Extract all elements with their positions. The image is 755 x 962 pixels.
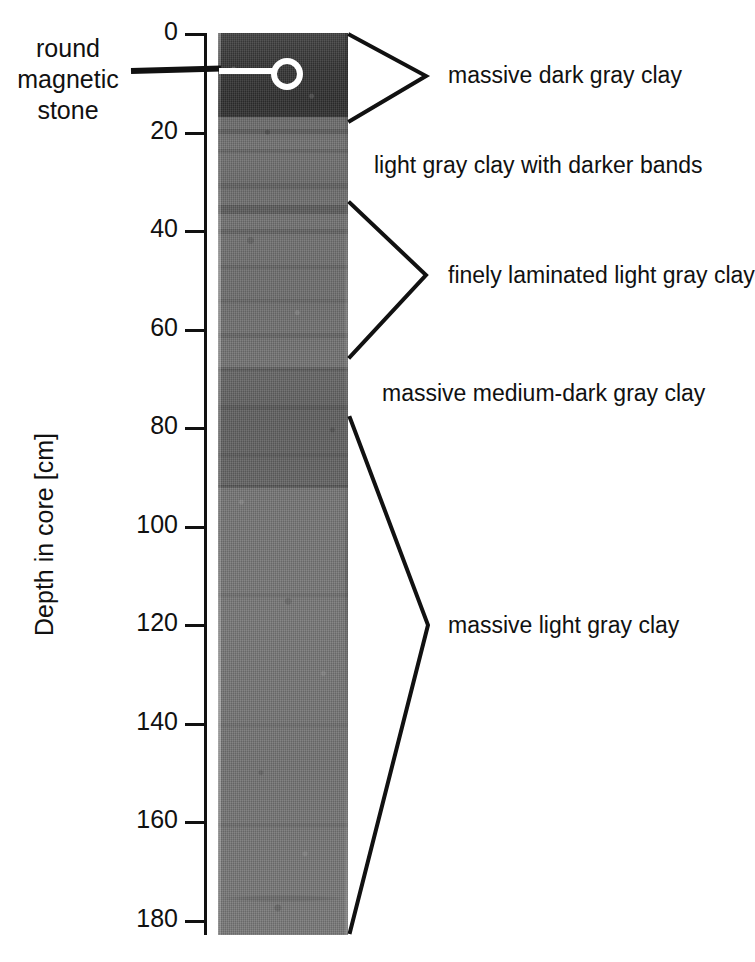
unit-3-label: finely laminated light gray clay [448,262,755,288]
unit-4-label: massive medium-dark gray clay [382,380,705,406]
callout-leader-line-inner [219,68,277,74]
axis-tick-label-20: 20 [150,118,178,143]
unit-1-label: massive dark gray clay [448,62,682,88]
unit-3-bracket [348,195,438,365]
axis-tick-label-160: 160 [136,807,178,832]
axis-tick-label-60: 60 [150,315,178,340]
axis-tick-label-0: 0 [164,19,178,44]
axis-tick-label-180: 180 [136,906,178,931]
unit-5-bracket [348,410,438,940]
axis-tick-160 [185,821,205,824]
axis-tick-60 [185,329,205,332]
callout-label: round magnetic stone [8,33,128,126]
unit-1-bracket [348,25,438,135]
core-unit-3 [218,206,348,369]
axis-tick-180 [185,920,205,923]
axis-tick-80 [185,427,205,430]
callout-label-line-2: magnetic [8,64,128,95]
axis-tick-100 [185,526,205,529]
core-unit-5 [218,487,348,935]
circle-marker-icon [271,58,303,90]
axis-tick-label-120: 120 [136,610,178,635]
core-log-figure: 0 20 40 60 80 100 120 140 160 180 Depth … [0,0,755,962]
axis-title: Depth in core [cm] [30,405,59,665]
callout-label-line-1: round [8,33,128,64]
axis-tick-120 [185,624,205,627]
unit-2-label: light gray clay with darker bands [374,152,703,178]
core-unit-4 [218,369,348,487]
axis-tick-label-100: 100 [136,512,178,537]
axis-line [204,33,207,935]
axis-tick-label-40: 40 [150,216,178,241]
unit-5-label: massive light gray clay [448,612,679,638]
axis-tick-140 [185,723,205,726]
core-photograph [218,33,348,935]
axis-tick-0 [185,33,205,36]
axis-tick-label-80: 80 [150,413,178,438]
axis-tick-20 [185,132,205,135]
core-unit-2 [218,117,348,206]
axis-tick-40 [185,230,205,233]
axis-tick-label-140: 140 [136,709,178,734]
callout-label-line-3: stone [8,95,128,126]
callout-leader-line [131,65,221,74]
